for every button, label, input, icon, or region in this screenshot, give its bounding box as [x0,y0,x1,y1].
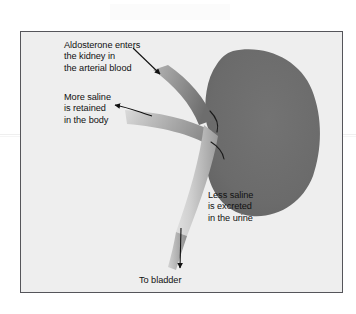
caption-more-saline-retained: More saline is retained in the body [64,92,111,126]
caption-less-saline-excreted: Less saline is excreted in the urine [208,190,253,224]
caption-aldosterone-enters: Aldosterone enters the kidney in the art… [64,40,140,74]
scan-smudge [110,4,230,20]
figure-frame: Aldosterone enters the kidney in the art… [20,31,343,293]
caption-to-bladder: To bladder [139,275,181,286]
page-canvas: Aldosterone enters the kidney in the art… [0,0,356,314]
